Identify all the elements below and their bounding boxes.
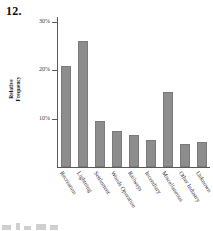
- figure-page: 12. 30%20%10% Relative Frequency Recreat…: [0, 0, 213, 231]
- scan-artifacts: [2, 222, 62, 230]
- bar: [197, 142, 207, 167]
- scan-artifact: [2, 225, 11, 230]
- y-tick-label: 10%: [28, 115, 50, 121]
- x-axis-label: Incendiary: [143, 170, 162, 195]
- y-tick-label-group: 30%: [28, 18, 50, 26]
- x-axis-label: Recreation: [58, 170, 77, 195]
- bar-series: [57, 17, 210, 167]
- bar: [180, 144, 190, 167]
- y-axis-title: Relative Frequency: [8, 61, 22, 117]
- y-tick-label: 20%: [28, 66, 50, 72]
- y-axis-title-line-2: Frequency: [15, 77, 21, 102]
- bar: [129, 135, 139, 167]
- x-axis-label: Unknown: [194, 170, 212, 193]
- x-axis-label: Lightning: [75, 170, 93, 193]
- x-axis-label: Settlement: [92, 170, 111, 195]
- scan-artifact: [50, 225, 58, 230]
- y-tick-label: 30%: [28, 18, 50, 24]
- y-tick-label-group: 10%: [28, 115, 50, 123]
- x-axis-labels: RecreationLightningSettlementWoods Opera…: [57, 168, 210, 230]
- x-axis-label: Railways: [126, 170, 143, 192]
- bar: [95, 121, 105, 167]
- y-tick-label-group: 20%: [28, 66, 50, 74]
- bar: [112, 131, 122, 167]
- bar: [61, 66, 71, 168]
- scan-artifact: [36, 224, 46, 230]
- bar: [78, 41, 88, 167]
- scan-artifact: [16, 223, 20, 230]
- bar: [163, 92, 173, 167]
- scan-artifact: [24, 226, 31, 230]
- bar: [146, 140, 156, 167]
- bar-chart: 30%20%10% Relative Frequency RecreationL…: [0, 0, 213, 231]
- y-axis-title-line-1: Relative: [8, 79, 14, 98]
